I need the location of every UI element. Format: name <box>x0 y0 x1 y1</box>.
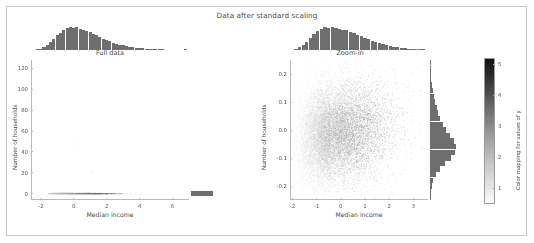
x-tick-label: 2 <box>105 200 108 209</box>
x-tick-label: -1 <box>314 200 319 209</box>
colorbar-tick-label: 1 <box>495 185 501 191</box>
colorbar-tick-label: 3 <box>495 123 501 129</box>
x-tick-label: -2 <box>290 200 295 209</box>
left-marginal-x-histogram <box>31 27 189 50</box>
x-tick-label: 3 <box>412 200 415 209</box>
histogram-bar <box>430 189 431 194</box>
histogram-bar <box>430 127 446 132</box>
y-tick-label: 100 <box>18 86 31 92</box>
histogram-bar <box>430 66 431 71</box>
y-tick-label: 0.1 <box>278 99 290 105</box>
left-ylabel: Number of households <box>12 104 18 170</box>
x-tick-label: 0 <box>72 200 75 209</box>
histogram-bar <box>430 122 443 127</box>
histogram-bar <box>430 82 432 87</box>
histogram-bar <box>430 105 437 110</box>
y-tick-label: 0.2 <box>278 71 290 77</box>
histogram-bar <box>430 172 436 177</box>
y-tick-label: 60 <box>21 128 31 134</box>
left-panel-title: Full data <box>55 49 165 57</box>
right-scatter-axes: Median income -2-101230.20.10.0-0.1-0.2 <box>290 60 428 200</box>
histogram-bar <box>430 110 438 115</box>
x-tick-label: 1 <box>363 200 366 209</box>
y-tick-label: 20 <box>21 170 31 176</box>
y-tick-label: 80 <box>21 107 31 113</box>
colorbar-label: Color mapping for values of y <box>515 110 521 190</box>
histogram-bar <box>430 161 445 166</box>
x-tick-label: 4 <box>138 200 141 209</box>
right-xlabel: Median income <box>290 211 428 218</box>
histogram-bar <box>430 71 431 76</box>
x-tick-label: 6 <box>171 200 174 209</box>
histogram-bar <box>430 133 450 138</box>
x-tick-label: 2 <box>388 200 391 209</box>
right-marginal-y-histogram <box>430 60 456 200</box>
matplotlib-figure: Data after standard scaling Full data Me… <box>0 0 534 243</box>
colorbar-container: 12345 <box>484 58 495 204</box>
histogram-bar <box>430 155 451 160</box>
right-scatter-points <box>290 60 428 200</box>
left-scatter-points <box>31 60 189 200</box>
figure-suptitle: Data after standard scaling <box>0 11 534 20</box>
y-tick-label: 0.0 <box>278 127 290 133</box>
colorbar-gradient <box>484 58 495 204</box>
histogram-bar <box>430 166 440 171</box>
right-panel-title: Zoom-in <box>295 49 405 57</box>
y-tick-label: 0 <box>25 191 31 197</box>
histogram-bar <box>430 88 433 93</box>
histogram-bar <box>430 183 432 188</box>
histogram-bar <box>191 191 213 196</box>
histogram-bar <box>430 138 454 143</box>
histogram-bar <box>430 144 456 149</box>
y-tick-label: 120 <box>18 65 31 71</box>
histogram-bar <box>430 99 435 104</box>
y-tick-label: -0.2 <box>276 183 290 189</box>
histogram-bar <box>430 94 434 99</box>
histogram-bar <box>430 150 455 155</box>
histogram-bar <box>430 77 431 82</box>
colorbar-tick-label: 5 <box>495 61 501 67</box>
colorbar-tick-label: 4 <box>495 92 501 98</box>
histogram-bar <box>184 49 187 50</box>
histogram-bar <box>430 178 433 183</box>
x-tick-label: -2 <box>38 200 43 209</box>
left-marginal-y-histogram <box>191 60 213 200</box>
right-marginal-x-histogram <box>290 27 428 50</box>
left-scatter-axes: Median income -20246020406080100120 <box>31 60 189 200</box>
right-ylabel: Number of households <box>261 104 267 170</box>
y-tick-label: -0.1 <box>276 155 290 161</box>
y-tick-label: 40 <box>21 149 31 155</box>
histogram-bar <box>430 116 440 121</box>
left-xlabel: Median income <box>31 211 189 218</box>
x-tick-label: 0 <box>339 200 342 209</box>
colorbar-tick-label: 2 <box>495 154 501 160</box>
